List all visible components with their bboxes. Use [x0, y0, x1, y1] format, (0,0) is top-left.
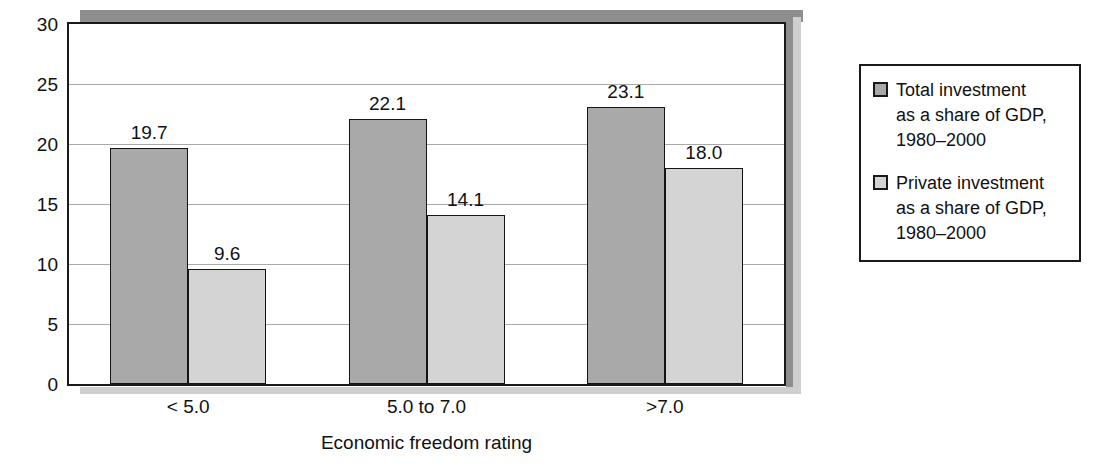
y-tick-label-25: 25 [18, 75, 58, 94]
bar-total-1 [349, 119, 427, 384]
bar-value-label-total-0: 19.7 [110, 123, 188, 142]
y-tick-label-0: 0 [18, 375, 58, 394]
bar-chart-figure: 302520151050 19.79.622.114.123.118.0 < 5… [0, 0, 1096, 476]
y-tick-label-5: 5 [18, 315, 58, 334]
total-investment-swatch [873, 82, 888, 97]
chart-legend: Total investment as a share of GDP, 1980… [859, 64, 1081, 262]
y-axis-tick-labels: 302520151050 [14, 22, 58, 386]
legend-label-0: Total investment as a share of GDP, 1980… [896, 78, 1047, 153]
bar-value-label-total-1: 22.1 [349, 94, 427, 113]
private-investment-swatch [873, 175, 888, 190]
x-tick-label-2: >7.0 [546, 396, 784, 418]
y-tick-label-20: 20 [18, 135, 58, 154]
bar-value-label-private-0: 9.6 [188, 244, 266, 263]
x-axis-title: Economic freedom rating [67, 432, 786, 454]
x-axis-tick-labels: < 5.05.0 to 7.0>7.0 [67, 396, 786, 422]
legend-label-1: Private investment as a share of GDP, 19… [896, 171, 1047, 246]
bar-private-1 [427, 215, 505, 384]
y-tick-label-30: 30 [18, 15, 58, 34]
x-tick-label-0: < 5.0 [69, 396, 307, 418]
bar-total-0 [110, 148, 188, 384]
legend-entry-0: Total investment as a share of GDP, 1980… [873, 78, 1069, 153]
plot-shadow-top [80, 10, 803, 22]
legend-entry-1: Private investment as a share of GDP, 19… [873, 171, 1069, 246]
bar-private-0 [188, 269, 266, 384]
plot-shadow-right-fade [793, 17, 801, 394]
plot-inner-canvas: 19.79.622.114.123.118.0 [69, 24, 784, 384]
plot-shadow-bottom-fade [80, 387, 801, 394]
gridline-25 [69, 84, 784, 85]
plot-area: 19.79.622.114.123.118.0 [67, 22, 786, 386]
bar-value-label-private-2: 18.0 [665, 143, 743, 162]
y-tick-label-15: 15 [18, 195, 58, 214]
bar-value-label-total-2: 23.1 [587, 82, 665, 101]
bar-total-2 [587, 107, 665, 384]
bar-value-label-private-1: 14.1 [427, 190, 505, 209]
x-tick-label-1: 5.0 to 7.0 [307, 396, 545, 418]
bar-private-2 [665, 168, 743, 384]
y-tick-label-10: 10 [18, 255, 58, 274]
